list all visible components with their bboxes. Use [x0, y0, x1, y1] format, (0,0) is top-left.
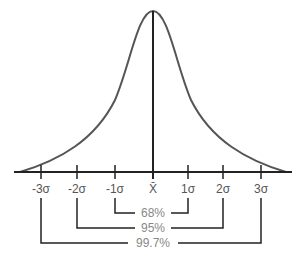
tick-label: -1σ	[106, 182, 125, 196]
label-68: 68%	[141, 206, 165, 220]
tick-labels: -3σ -2σ -1σ X̄ 1σ 2σ 3σ	[32, 182, 269, 196]
label-99-7: 99.7%	[136, 236, 170, 250]
tick-label: 3σ	[254, 182, 269, 196]
tick-label: -3σ	[32, 182, 51, 196]
tick-label: 2σ	[216, 182, 231, 196]
tick-label: -2σ	[68, 182, 87, 196]
tick-label: 1σ	[181, 182, 196, 196]
bell-curve-diagram: -3σ -2σ -1σ X̄ 1σ 2σ 3σ 68% 95% 99.7%	[0, 0, 306, 260]
tick-label-mean: X̄	[149, 182, 157, 196]
label-95: 95%	[141, 221, 165, 235]
